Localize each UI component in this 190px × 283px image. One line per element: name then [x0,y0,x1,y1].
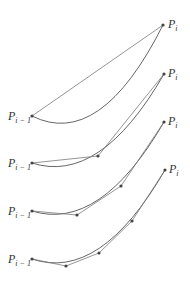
polyline [32,74,164,163]
panel-4: Pi − 1 Pi [7,162,179,268]
point-end [162,120,165,123]
label-start: Pi − 1 [7,204,31,220]
point-end [163,168,166,171]
chord [32,25,163,116]
point-end [161,23,164,26]
polyline [32,122,164,215]
label-end: Pi [167,17,178,33]
label-end: Pi [168,162,179,178]
point-mid [97,251,100,254]
panel-3: Pi − 1 Pi [7,114,178,220]
label-start: Pi − 1 [7,156,31,172]
label-end: Pi [167,66,178,82]
point-mid [119,184,122,187]
label-end: Pi [167,114,178,130]
curve [32,25,163,123]
point-mid [64,264,67,267]
curve [32,122,164,214]
point-mid [75,213,78,216]
panel-1: Pi − 1 Pi [7,17,178,125]
point-mid [130,219,133,222]
point-mid [96,154,99,157]
point-end [162,72,165,75]
curve [32,170,165,263]
label-start: Pi − 1 [7,109,31,125]
label-start: Pi − 1 [7,252,31,268]
curve-subdivision-diagram: Pi − 1 Pi Pi − 1 Pi Pi − 1 Pi Pi − 1 Pi [0,0,190,283]
panel-2: Pi − 1 Pi [7,66,178,172]
